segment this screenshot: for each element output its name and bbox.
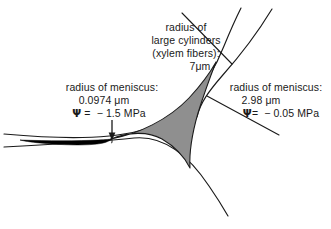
capillary-wedge	[20, 139, 112, 145]
annotation-meniscus-right-line1: radius of meniscus:	[217, 81, 331, 94]
annotation-large-cylinders-line2: large cylinders	[122, 34, 250, 47]
annotation-large-cylinders-line3: (xylem fibers):	[122, 47, 250, 60]
psi-value-left: − 1.5 MPa	[97, 107, 146, 119]
psi-value-right: − 0.05 MPa	[264, 107, 319, 119]
annotation-large-cylinders: radius of large cylinders (xylem fibers)…	[122, 21, 250, 73]
psi-relation-right: =	[252, 107, 258, 119]
psi-symbol-left: Ψ	[72, 107, 81, 119]
annotation-meniscus-left: radius of meniscus: 0.0974 μm Ψ = − 1.5 …	[44, 81, 180, 120]
annotation-meniscus-right: radius of meniscus: 2.98 μm Ψ= − 0.05 MP…	[217, 81, 331, 120]
annotation-meniscus-left-value: 0.0974 μm	[44, 94, 180, 107]
cylinder-wall-lower-left	[4, 138, 228, 216]
annotation-meniscus-left-psi: Ψ = − 1.5 MPa	[44, 107, 180, 120]
psi-relation-left: =	[84, 107, 90, 119]
annotation-meniscus-right-value: 2.98 μm	[217, 94, 331, 107]
annotation-large-cylinders-value: 7μm	[122, 60, 250, 73]
annotation-meniscus-right-psi: Ψ= − 0.05 MPa	[217, 107, 331, 120]
annotation-meniscus-left-line1: radius of meniscus:	[44, 81, 180, 94]
psi-symbol-right: Ψ	[243, 107, 252, 119]
xylem-meniscus-diagram: radius of large cylinders (xylem fibers)…	[0, 0, 331, 229]
annotation-large-cylinders-line1: radius of	[122, 21, 250, 34]
